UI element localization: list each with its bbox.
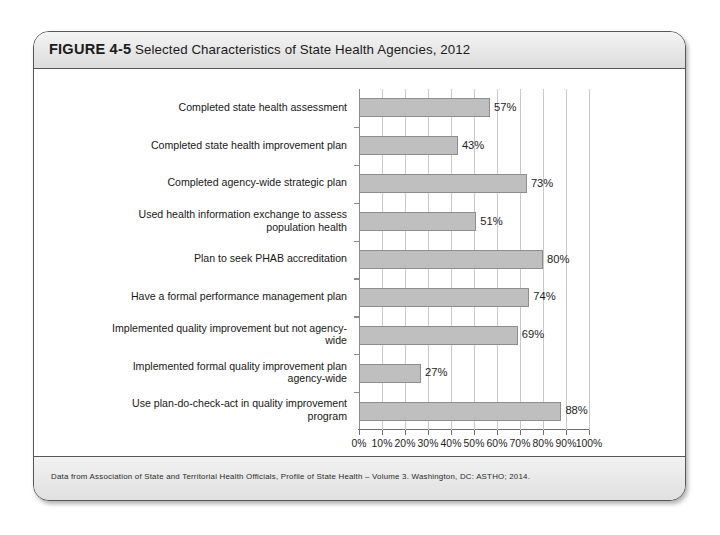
bar-value-label: 43% <box>462 139 484 151</box>
category-label: Completed agency-wide strategic plan <box>107 176 347 189</box>
bar <box>359 402 561 421</box>
y-axis-tick <box>354 354 359 355</box>
category-label: Used health information exchange to asse… <box>107 208 347 233</box>
y-axis-tick <box>354 241 359 242</box>
bar <box>359 136 458 155</box>
bar-value-label: 57% <box>494 101 516 113</box>
figure-body: 0%10%20%30%40%50%60%70%80%90%100%57%Comp… <box>34 69 685 457</box>
gridline <box>543 89 544 430</box>
x-axis-tick <box>474 430 475 435</box>
x-axis-tick <box>543 430 544 435</box>
y-axis-tick <box>354 278 359 279</box>
category-label: Have a formal performance management pla… <box>107 290 347 303</box>
bar-value-label: 88% <box>565 404 587 416</box>
category-label: Completed state health improvement plan <box>107 139 347 152</box>
x-axis-tick <box>382 430 383 435</box>
bar-value-label: 69% <box>522 328 544 340</box>
y-axis-tick <box>354 316 359 317</box>
bar <box>359 250 543 269</box>
x-axis-tick <box>566 430 567 435</box>
figure-footer-band: Data from Association of State and Terri… <box>34 456 685 500</box>
bar-value-label: 27% <box>425 366 447 378</box>
x-axis-tick <box>405 430 406 435</box>
bar <box>359 212 476 231</box>
x-axis-tick <box>451 430 452 435</box>
bar <box>359 288 529 307</box>
y-axis-tick <box>354 165 359 166</box>
bar <box>359 364 421 383</box>
y-axis-tick <box>354 203 359 204</box>
figure-title: FIGURE 4-5 Selected Characteristics of S… <box>49 41 470 57</box>
x-axis-tick <box>589 430 590 435</box>
bar <box>359 174 527 193</box>
bar-value-label: 80% <box>547 253 569 265</box>
figure-screenshot: FIGURE 4-5 Selected Characteristics of S… <box>0 0 720 535</box>
gridline <box>589 89 590 430</box>
category-label: Implemented quality improvement but not … <box>107 322 347 347</box>
bar <box>359 326 518 345</box>
source-note: Data from Association of State and Terri… <box>51 472 530 481</box>
bar-chart: 0%10%20%30%40%50%60%70%80%90%100%57%Comp… <box>34 69 686 457</box>
x-axis-tick-label: 100% <box>571 438 607 449</box>
category-label: Completed state health assessment <box>107 101 347 114</box>
x-axis-tick <box>520 430 521 435</box>
category-label: Plan to seek PHAB accreditation <box>107 252 347 265</box>
figure-card: FIGURE 4-5 Selected Characteristics of S… <box>33 31 686 501</box>
category-label: Implemented formal quality improvement p… <box>107 360 347 385</box>
x-axis-tick <box>497 430 498 435</box>
figure-number-label: FIGURE 4-5 <box>49 41 131 57</box>
figure-header-band: FIGURE 4-5 Selected Characteristics of S… <box>34 32 685 69</box>
category-label: Use plan-do-check-act in quality improve… <box>107 397 347 422</box>
y-axis-tick <box>354 127 359 128</box>
y-axis-tick <box>354 392 359 393</box>
figure-title-text: Selected Characteristics of State Health… <box>135 42 470 57</box>
bar-value-label: 51% <box>480 215 502 227</box>
x-axis-tick <box>359 430 360 435</box>
bar <box>359 98 490 117</box>
bar-value-label: 73% <box>531 177 553 189</box>
bar-value-label: 74% <box>533 290 555 302</box>
x-axis-tick <box>428 430 429 435</box>
